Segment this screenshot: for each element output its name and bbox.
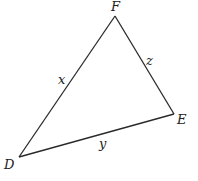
side-y <box>19 114 174 157</box>
side-label-x: x <box>58 72 66 87</box>
side-z <box>115 16 174 114</box>
side-label-z: z <box>145 53 153 68</box>
vertex-label-e: E <box>176 112 187 127</box>
vertex-label-f: F <box>110 0 121 14</box>
vertex-label-d: D <box>3 157 15 172</box>
triangle-diagram: F E D x y z <box>0 0 198 181</box>
side-label-y: y <box>98 136 107 151</box>
